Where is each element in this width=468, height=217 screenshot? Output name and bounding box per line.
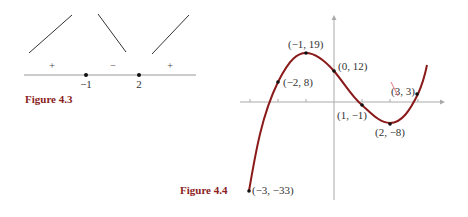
sign-label: − <box>110 60 116 71</box>
point-label: (−3, −33) <box>252 184 294 197</box>
figure-caption: Figure 4.4 <box>180 184 228 196</box>
critical-point-label: 2 <box>136 78 142 90</box>
increasing-segment-left <box>29 15 72 53</box>
point-label: (3, 3) <box>391 85 415 98</box>
increasing-segment-right <box>152 15 189 54</box>
point-label: (2, −8) <box>375 126 405 139</box>
critical-point-dot <box>84 73 88 77</box>
figure-4-3: + − + −1 2 Figure 4.3 <box>24 14 196 105</box>
critical-point-dot <box>137 73 141 77</box>
decreasing-segment <box>98 14 126 52</box>
cubic-curve <box>249 53 427 191</box>
point-label: (−1, 19) <box>288 38 324 51</box>
figure-caption: Figure 4.3 <box>25 93 73 105</box>
y-axis-arrow-icon <box>332 15 337 20</box>
x-axis-arrow-icon <box>440 100 445 105</box>
critical-point-label: −1 <box>80 78 92 90</box>
point-label: (0, 12) <box>338 60 368 73</box>
point-label: (1, −1) <box>337 109 367 122</box>
sign-label: + <box>49 60 55 71</box>
point-label: (−2, 8) <box>283 76 313 89</box>
figure-4-4: (−1, 19) (0, 12) (−2, 8) (3, 3) (1, −1) … <box>180 15 445 200</box>
sign-label: + <box>167 60 173 71</box>
figures-canvas: + − + −1 2 Figure 4.3 (−1, 19) <box>0 0 468 217</box>
